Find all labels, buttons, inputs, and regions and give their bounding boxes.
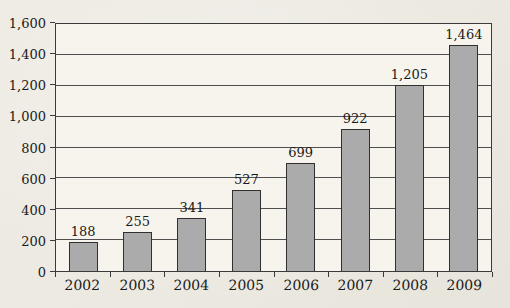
bar-value-label: 1,464 [445,28,482,42]
bar-slot: 1,464 [437,24,491,271]
y-tick-label: 200 [21,233,46,248]
y-tick-label: 1,200 [9,78,46,93]
bar [449,45,478,271]
plot-area: 1882553415276999221,2051,464 [55,23,492,272]
bar-value-label: 527 [234,173,259,187]
bar [286,163,315,271]
x-category-label: 2005 [219,277,274,293]
bar-value-label: 341 [180,201,205,215]
bars-layer: 1882553415276999221,2051,464 [56,24,491,271]
bar [341,129,370,271]
y-tick-label: 0 [38,265,46,280]
x-category-label: 2006 [273,277,328,293]
bar-value-label: 188 [71,225,96,239]
bar-value-label: 922 [343,112,368,126]
bar-chart-figure: 02004006008001,0001,2001,4001,600 188255… [0,0,510,308]
bar-value-label: 699 [288,146,313,160]
bar-value-label: 255 [125,215,150,229]
bar-slot: 527 [219,24,273,271]
bar-value-label: 1,205 [391,68,428,82]
x-axis-labels: 20022003200420052006200720082009 [55,277,492,293]
y-tick-label: 1,600 [9,16,46,31]
x-category-label: 2009 [437,277,492,293]
bar-slot: 699 [274,24,328,271]
x-category-label: 2008 [382,277,437,293]
y-tick-label: 1,400 [9,47,46,62]
x-category-label: 2003 [109,277,164,293]
bar-slot: 1,205 [382,24,436,271]
bar-slot: 341 [165,24,219,271]
bar-slot: 188 [56,24,110,271]
x-tick-mark [492,272,493,277]
bar [69,242,98,271]
x-category-label: 2007 [328,277,383,293]
y-axis-labels: 02004006008001,0001,2001,4001,600 [0,23,46,272]
bar [123,232,152,271]
bar-slot: 922 [328,24,382,271]
bar [177,218,206,271]
bar-slot: 255 [110,24,164,271]
y-tick-label: 1,000 [9,109,46,124]
x-category-label: 2004 [164,277,219,293]
y-tick-label: 400 [21,202,46,217]
bar [395,85,424,271]
x-category-label: 2002 [55,277,110,293]
bar [232,190,261,271]
y-tick-label: 800 [21,140,46,155]
y-tick-label: 600 [21,171,46,186]
